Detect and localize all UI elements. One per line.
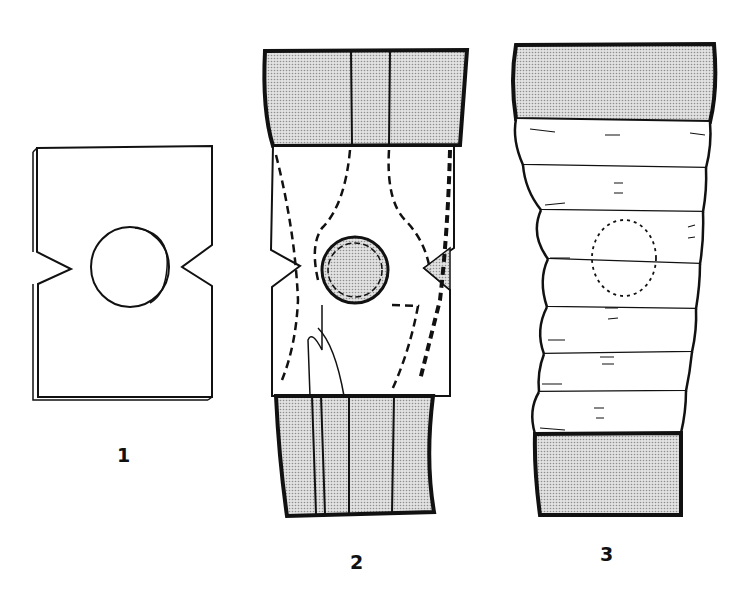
figure-1-label: 1: [117, 446, 130, 465]
figure-1-pad: [33, 146, 212, 400]
figure-3-bandaged-leg: [513, 44, 715, 515]
figure-2-knee-pad: [264, 50, 467, 516]
figure-3-label: 3: [600, 545, 613, 564]
figure-2-label: 2: [350, 553, 363, 572]
